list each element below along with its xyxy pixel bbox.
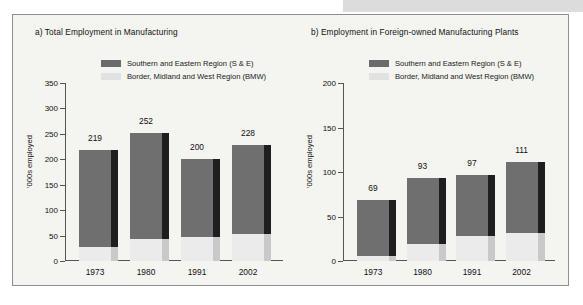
bar-segment-bmw-1980 (407, 244, 439, 261)
b-tick-0 (338, 261, 343, 262)
bar-segment-se-1980 (130, 133, 162, 239)
bar-group-1973[interactable]: 691973 (357, 200, 389, 261)
bar-value-label-1980: 252 (139, 116, 153, 126)
bar-segment-bmw-2002 (506, 233, 538, 261)
bar-side-se-1980 (439, 178, 446, 244)
bar-side-se-1973 (111, 150, 118, 247)
bar-segment-se-2002 (232, 145, 264, 233)
b-tick-label-0: 0 (332, 257, 336, 266)
panel-b-title: b) Employment in Foreign-owned Manufactu… (311, 27, 519, 37)
b-tick-label-200: 200 (323, 79, 336, 88)
legend-label-se: Southern and Eastern Region (S & E) (127, 59, 254, 68)
bar-side-se-1973 (389, 200, 396, 256)
b-tick-label-150: 150 (323, 123, 336, 132)
bar-value-label-2002: 111 (515, 145, 528, 155)
bar-side-bmw-2002 (538, 233, 545, 261)
bar-side-bmw-1991 (213, 237, 220, 261)
bar-side-bmw-1973 (389, 256, 396, 261)
chart-panel-a: a) Total Employment in Manufacturing Sou… (13, 15, 303, 287)
panel-b-y-axis-label: '000s employed (305, 135, 314, 188)
legend-item-bmw: Border, Midland and West Region (BMW) (101, 71, 266, 82)
bar-side-se-1980 (162, 133, 169, 239)
bar-group-1991[interactable]: 971991 (456, 175, 488, 261)
panel-a-title: a) Total Employment in Manufacturing (35, 27, 178, 37)
legend-item-bmw: Border, Midland and West Region (BMW) (369, 71, 534, 82)
chart-panel-b: b) Employment in Foreign-owned Manufactu… (303, 15, 570, 287)
bar-side-bmw-1991 (488, 236, 495, 261)
bar-segment-bmw-1991 (456, 236, 488, 261)
bar-segment-bmw-2002 (232, 234, 264, 261)
bar-segment-se-1991 (456, 175, 488, 236)
legend-swatch-se (369, 60, 389, 67)
bar-side-se-2002 (538, 162, 545, 232)
bar-group-1973[interactable]: 2191973 (79, 150, 111, 261)
bar-segment-se-1980 (407, 178, 439, 244)
x-axis-label-1980: 1980 (413, 267, 432, 277)
a-tick-label-200: 200 (45, 155, 58, 164)
bar-segment-se-1973 (357, 200, 389, 256)
panel-a-plot-area: 050100150200250300350 219197325219802001… (65, 83, 283, 261)
panel-a-legend: Southern and Eastern Region (S & E) Bord… (101, 58, 266, 84)
b-tick-label-100: 100 (323, 168, 336, 177)
b-tick-label-50: 50 (327, 212, 336, 221)
a-tick-label-150: 150 (45, 180, 58, 189)
bar-segment-se-2002 (506, 162, 538, 232)
x-axis-label-1991: 1991 (188, 267, 207, 277)
bar-value-label-1980: 93 (418, 161, 427, 171)
bar-side-bmw-1980 (439, 244, 446, 261)
a-tick-0 (60, 261, 65, 262)
panel-a-bars: 2191973252198020019912282002 (65, 83, 283, 261)
bar-side-bmw-1973 (111, 247, 118, 261)
x-axis-label-2002: 2002 (512, 267, 531, 277)
a-tick-label-100: 100 (45, 206, 58, 215)
bar-value-label-1973: 219 (88, 133, 102, 143)
bar-group-1991[interactable]: 2001991 (181, 159, 213, 261)
legend-item-se: Southern and Eastern Region (S & E) (369, 58, 534, 69)
a-tick-label-250: 250 (45, 129, 58, 138)
bar-segment-bmw-1973 (79, 247, 111, 261)
bar-group-1980[interactable]: 931980 (407, 178, 439, 261)
bar-segment-se-1973 (79, 150, 111, 247)
x-axis-label-2002: 2002 (239, 267, 258, 277)
panel-b-legend: Southern and Eastern Region (S & E) Bord… (369, 58, 534, 84)
panel-b-bars: 6919739319809719911112002 (343, 83, 555, 261)
x-axis-label-1980: 1980 (137, 267, 156, 277)
figure-frame: a) Total Employment in Manufacturing Sou… (12, 14, 569, 286)
bar-value-label-2002: 228 (241, 128, 255, 138)
bar-segment-se-1991 (181, 159, 213, 236)
panel-a-y-axis-label: '000s employed (25, 135, 34, 188)
bar-side-bmw-1980 (162, 239, 169, 261)
bar-segment-bmw-1973 (357, 256, 389, 261)
bar-segment-bmw-1980 (130, 239, 162, 261)
top-decorative-band (343, 0, 583, 12)
bar-group-2002[interactable]: 2282002 (232, 145, 264, 261)
bar-group-2002[interactable]: 1112002 (506, 162, 538, 261)
legend-swatch-bmw (369, 73, 389, 80)
bar-value-label-1991: 97 (467, 158, 476, 168)
a-tick-label-350: 350 (45, 79, 58, 88)
bar-value-label-1991: 200 (190, 142, 204, 152)
x-axis-label-1991: 1991 (463, 267, 482, 277)
bar-group-1980[interactable]: 2521980 (130, 133, 162, 261)
legend-item-se: Southern and Eastern Region (S & E) (101, 58, 266, 69)
bar-side-bmw-2002 (264, 234, 271, 261)
legend-label-se: Southern and Eastern Region (S & E) (395, 59, 522, 68)
bar-side-se-2002 (264, 145, 271, 233)
x-axis-label-1973: 1973 (86, 267, 105, 277)
bar-value-label-1973: 69 (368, 183, 377, 193)
bar-segment-bmw-1991 (181, 237, 213, 261)
legend-label-bmw: Border, Midland and West Region (BMW) (127, 72, 266, 81)
a-tick-label-50: 50 (49, 231, 58, 240)
bar-side-se-1991 (213, 159, 220, 236)
legend-label-bmw: Border, Midland and West Region (BMW) (395, 72, 534, 81)
panel-b-plot-area: 050100150200 6919739319809719911112002 (343, 83, 555, 261)
x-axis-label-1973: 1973 (364, 267, 383, 277)
legend-swatch-se (101, 60, 121, 67)
legend-swatch-bmw (101, 73, 121, 80)
a-tick-label-300: 300 (45, 104, 58, 113)
bar-side-se-1991 (488, 175, 495, 236)
a-tick-label-0: 0 (54, 257, 58, 266)
